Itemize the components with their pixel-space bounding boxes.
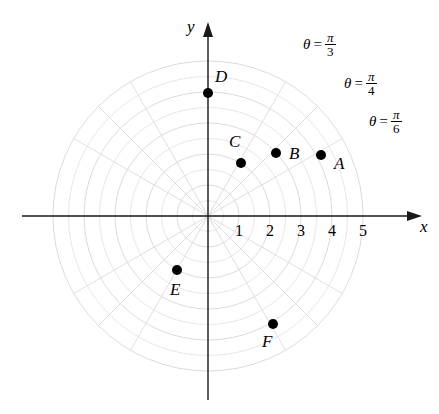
point-label-e: E [170, 281, 180, 298]
x-tick-label: 4 [328, 222, 336, 239]
data-point-e [172, 265, 182, 275]
data-point-a [316, 150, 326, 160]
equals-symbol: = [354, 76, 362, 91]
point-label-f: F [262, 333, 272, 350]
data-point-f [268, 319, 278, 329]
fraction-numerator: π [391, 108, 402, 121]
grid-ray [208, 216, 342, 294]
theta-pi-4-annotation: θ=π4 [344, 70, 377, 98]
data-point-c [236, 158, 246, 168]
x-tick-label: 3 [297, 222, 305, 239]
polar-plot-figure: 12345 ABCDEF θ=π3θ=π4θ=π6 x y [0, 0, 439, 414]
data-point-b [271, 148, 281, 158]
x-tick-label: 5 [359, 222, 367, 239]
plot-canvas: 12345 [0, 0, 439, 414]
y-axis-arrowhead [203, 22, 213, 37]
equals-symbol: = [313, 37, 321, 52]
x-axis-label: x [420, 218, 428, 235]
point-label-a: A [334, 155, 344, 172]
theta-pi-6-annotation: θ=π6 [369, 108, 402, 136]
fraction: π3 [325, 31, 336, 59]
grid-ray [131, 82, 209, 216]
grid-ray [74, 216, 208, 294]
fraction-denominator: 3 [325, 45, 336, 58]
data-point-d [203, 88, 213, 98]
y-axis-label: y [187, 18, 195, 35]
grid-ray [98, 106, 208, 216]
x-tick-label: 2 [266, 222, 274, 239]
fraction-denominator: 6 [391, 122, 402, 135]
theta-symbol: θ [303, 37, 310, 52]
theta-symbol: θ [369, 114, 376, 129]
x-tick-label: 1 [235, 222, 243, 239]
point-label-b: B [289, 145, 299, 162]
grid-ray [98, 216, 208, 326]
point-label-d: D [215, 68, 227, 85]
fraction-numerator: π [325, 31, 336, 44]
grid-ray [74, 139, 208, 217]
theta-symbol: θ [344, 76, 351, 91]
fraction-denominator: 4 [366, 84, 377, 97]
theta-pi-3-annotation: θ=π3 [303, 31, 336, 59]
fraction: π6 [391, 108, 402, 136]
grid-ray [208, 106, 318, 216]
point-label-c: C [229, 133, 240, 150]
fraction: π4 [366, 70, 377, 98]
fraction-numerator: π [366, 70, 377, 83]
equals-symbol: = [379, 114, 387, 129]
